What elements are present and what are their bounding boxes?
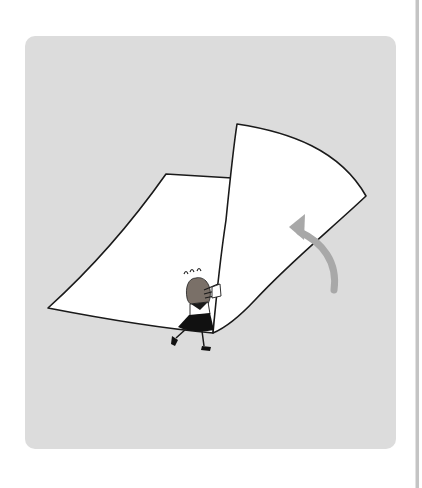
- page: Girl pushing a huge sheet of paper to tu…: [0, 0, 422, 488]
- page-turning-illustration: [25, 36, 396, 449]
- curled-paper-sheet: [213, 124, 366, 333]
- illustration-card: Girl pushing a huge sheet of paper to tu…: [25, 36, 396, 449]
- vertical-scrollbar[interactable]: [415, 0, 419, 488]
